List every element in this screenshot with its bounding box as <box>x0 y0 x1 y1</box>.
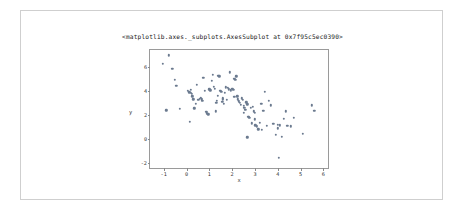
scatter-point <box>251 122 253 124</box>
scatter-point <box>281 135 283 137</box>
scatter-point <box>302 132 304 134</box>
scatter-point <box>173 78 175 80</box>
scatter-point <box>218 75 220 77</box>
scatter-point <box>258 122 260 124</box>
scatter-point <box>311 104 313 106</box>
scatter-point <box>175 84 177 86</box>
y-tick-label: 6 <box>134 64 147 70</box>
y-tick-label: 0 <box>134 136 147 142</box>
scatter-point <box>193 107 195 109</box>
scatter-point <box>209 89 211 91</box>
y-axis-label: y <box>129 109 132 115</box>
scatter-point <box>234 78 236 80</box>
scatter-point <box>220 90 222 92</box>
scatter-point <box>251 105 253 107</box>
y-tick-label: -2 <box>134 160 147 166</box>
scatter-point <box>207 113 209 115</box>
scatter-point <box>232 89 234 91</box>
scatter-point <box>178 108 180 110</box>
scatter-point <box>214 87 216 89</box>
scatter-point <box>224 92 226 94</box>
scatter-point <box>246 136 248 138</box>
scatter-point <box>244 108 246 110</box>
y-tick-label: 2 <box>134 112 147 118</box>
scatter-point <box>204 90 206 92</box>
scatter-point <box>279 124 281 126</box>
scatter-point <box>293 117 295 119</box>
figure-card: <matplotlib.axes._subplots.AxesSubplot a… <box>20 10 443 200</box>
scatter-point <box>229 71 231 73</box>
x-axis-label: x <box>149 177 329 183</box>
scatter-plot-axes: -10123456 -20246 <box>149 49 329 169</box>
scatter-point <box>277 127 279 129</box>
scatter-point <box>262 110 264 112</box>
scatter-point <box>260 102 262 104</box>
y-tick <box>148 91 151 92</box>
scatter-point <box>161 63 163 65</box>
scatter-point <box>246 103 248 105</box>
scatter-point <box>284 110 286 112</box>
figure-title: <matplotlib.axes._subplots.AxesSubplot a… <box>21 33 444 40</box>
scatter-point <box>313 110 315 112</box>
scatter-point <box>253 111 255 113</box>
scatter-point <box>210 80 212 82</box>
scatter-point <box>267 99 269 101</box>
scatter-point <box>223 102 225 104</box>
scatter-point <box>242 111 244 113</box>
scatter-point <box>278 157 280 159</box>
scatter-point <box>270 104 272 106</box>
scatter-point <box>257 128 259 130</box>
scatter-point <box>225 99 227 101</box>
scatter-point <box>168 54 170 56</box>
scatter-point <box>215 110 217 112</box>
scatter-point <box>201 99 203 101</box>
scatter-point <box>264 90 266 92</box>
scatter-point <box>194 102 196 104</box>
scatter-point <box>165 109 167 111</box>
scatter-point <box>216 95 218 97</box>
scatter-point <box>212 73 214 75</box>
y-tick <box>148 139 151 140</box>
scatter-point <box>241 99 243 101</box>
scatter-point <box>189 120 191 122</box>
scatter-point <box>235 75 237 77</box>
scatter-point <box>274 134 276 136</box>
scatter-point <box>215 102 217 104</box>
scatter-point <box>171 67 173 69</box>
matplotlib-figure: <matplotlib.axes._subplots.AxesSubplot a… <box>21 11 444 201</box>
scatter-point <box>249 117 251 119</box>
scatter-point <box>290 125 292 127</box>
scatter-point <box>254 118 256 120</box>
y-tick <box>148 163 151 164</box>
scatter-point <box>286 125 288 127</box>
y-tick <box>148 67 151 68</box>
y-tick <box>148 115 151 116</box>
y-tick-label: 4 <box>134 88 147 94</box>
scatter-point <box>202 76 204 78</box>
scatter-point <box>192 98 194 100</box>
scatter-point <box>283 117 285 119</box>
scatter-point <box>196 84 198 86</box>
scatter-point <box>272 123 274 125</box>
scatter-point <box>266 125 268 127</box>
scatter-point <box>261 129 263 131</box>
